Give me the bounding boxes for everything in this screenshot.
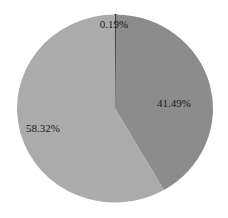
slice-label-small: 0.19% [100,18,128,30]
pie-chart-canvas: 0.19% 41.49% 58.32% [0,0,228,218]
pie-chart: 0.19% 41.49% 58.32% [0,0,228,218]
slice-label-medium: 41.49% [157,97,191,109]
slice-label-large: 58.32% [26,122,60,134]
